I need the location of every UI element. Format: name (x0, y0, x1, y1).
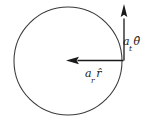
acceleration-diagram: atθ̂ arr̂ (0, 0, 152, 127)
radial-acceleration-label: arr̂ (85, 64, 101, 83)
r-hat-unit-vector: r̂ (96, 67, 101, 80)
radial-label-subscript: r (91, 76, 95, 85)
tangential-label-subscript: t (129, 44, 132, 53)
theta-hat-unit-vector: θ̂ (134, 35, 141, 48)
diagram-canvas (0, 0, 152, 127)
tangential-acceleration-label: atθ̂ (123, 32, 140, 51)
tangential-arrowhead (121, 4, 128, 17)
radial-arrowhead (66, 57, 79, 64)
